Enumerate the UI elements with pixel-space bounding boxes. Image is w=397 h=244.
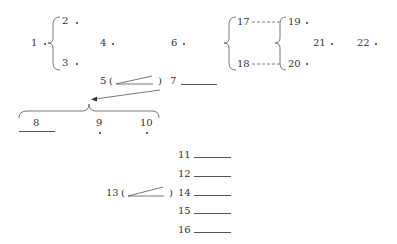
blank-11[interactable] (194, 157, 231, 158)
node-13-label: 13 (106, 187, 119, 199)
node-8-label: 8 (33, 117, 39, 129)
angle-5-upper (116, 76, 152, 84)
brace-17-18 (224, 17, 236, 70)
angle-13-upper (128, 187, 163, 196)
node-11-label: 11 (178, 149, 191, 161)
node-21-label: 21 (313, 37, 326, 49)
node-21-dot (331, 43, 333, 45)
brace-19-20 (275, 17, 286, 70)
brace-left-1 (48, 17, 60, 70)
paren-open-13: ( (121, 187, 125, 199)
blank-12[interactable] (194, 176, 231, 177)
node-9-dot (99, 132, 101, 134)
node-17-label: 17 (237, 16, 250, 28)
node-20-label: 20 (288, 58, 301, 70)
node-10-label: 10 (140, 117, 153, 129)
paren-close-5: ) (158, 75, 162, 87)
paren-open-5: ( (109, 75, 113, 87)
paren-close-13: ) (169, 187, 173, 199)
node-7-label: 7 (170, 75, 176, 87)
node-4-label: 4 (100, 37, 106, 49)
node-1-label: 1 (31, 37, 37, 49)
node-22-label: 22 (357, 37, 370, 49)
node-16-label: 16 (178, 224, 191, 236)
diagram-lines (0, 0, 397, 244)
blank-7[interactable] (181, 84, 217, 85)
node-15-label: 15 (178, 205, 191, 217)
node-14-label: 14 (178, 187, 191, 199)
node-1-dot (44, 43, 46, 45)
node-22-dot (375, 43, 377, 45)
blank-16[interactable] (194, 232, 231, 233)
blank-14[interactable] (194, 195, 231, 196)
node-3-label: 3 (62, 57, 68, 69)
brace-horizontal (19, 104, 159, 118)
node-5-label: 5 (100, 75, 106, 87)
node-19-label: 19 (288, 16, 301, 28)
node-4-dot (112, 43, 114, 45)
node-2-dot (76, 22, 78, 24)
node-2-label: 2 (62, 15, 68, 27)
blank-15[interactable] (194, 213, 231, 214)
node-18-label: 18 (237, 58, 250, 70)
node-9-label: 9 (96, 117, 102, 129)
node-20-dot (306, 63, 308, 65)
arrow-line (95, 90, 160, 99)
node-12-label: 12 (178, 168, 191, 180)
node-6-label: 6 (171, 37, 177, 49)
blank-8[interactable] (19, 131, 55, 132)
node-19-dot (306, 22, 308, 24)
node-3-dot (76, 63, 78, 65)
node-6-dot (183, 43, 185, 45)
arrowhead (91, 97, 97, 102)
node-10-dot (146, 132, 148, 134)
